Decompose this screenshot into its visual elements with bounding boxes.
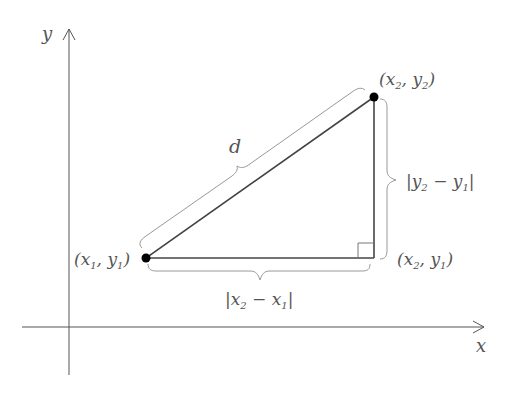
horizontal-brace (148, 264, 370, 280)
right-angle-marker (358, 243, 374, 258)
point-p2-label: (x2, y2) (379, 69, 435, 91)
vertical-distance-label: |y2 − y1| (406, 171, 475, 193)
right-triangle (146, 97, 374, 258)
y-axis-label: y (41, 23, 53, 44)
horizontal-distance-label: |x2 − x1| (225, 289, 293, 311)
hypotenuse (146, 97, 374, 258)
point-p2 (370, 93, 379, 102)
hypotenuse-brace (140, 88, 365, 248)
x-axis-label: x (476, 335, 486, 356)
point-p1-label: (x1, y1) (74, 249, 130, 271)
corner-point-label: (x2, y1) (397, 249, 453, 271)
distance-diagram: y x d (x1, y1) (x2, y2) (x2, y1) |x2 − x… (0, 0, 514, 394)
point-p1 (142, 254, 151, 263)
vertical-brace (380, 99, 396, 259)
distance-label: d (229, 135, 241, 157)
